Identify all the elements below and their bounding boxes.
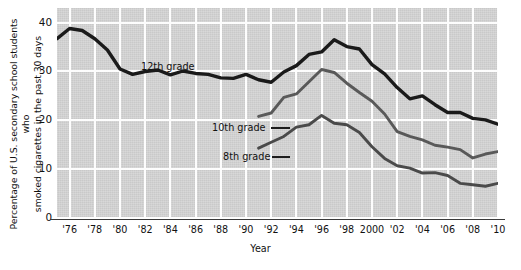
x-tick-label: '96 — [314, 224, 329, 235]
series-lines — [57, 8, 498, 218]
x-tick-label: '98 — [339, 224, 354, 235]
x-tick-label: '80 — [113, 224, 128, 235]
chart-figure: Percentage of U.S. secondary school stud… — [0, 0, 521, 270]
x-tick-label: '92 — [264, 224, 279, 235]
x-tick-label: '78 — [87, 224, 102, 235]
x-tick-label: '90 — [239, 224, 254, 235]
series-label-10th-grade: 10th grade — [212, 122, 266, 133]
leader-line-8th-grade — [272, 156, 290, 158]
x-tick-label: '02 — [390, 224, 405, 235]
x-tick-label: '84 — [163, 224, 178, 235]
x-tick-label: '08 — [465, 224, 480, 235]
x-tick-label: '94 — [289, 224, 304, 235]
y-tick-label: 0 — [26, 211, 52, 223]
x-tick-label: '88 — [213, 224, 228, 235]
plot-area — [57, 8, 498, 218]
series-label-12th-grade: 12th grade — [141, 61, 195, 72]
series-line-12th-grade — [57, 29, 498, 125]
y-tick-label: 20 — [26, 113, 52, 125]
x-axis-title: Year — [0, 243, 521, 254]
y-tick-label: 10 — [26, 162, 52, 174]
y-tick-label: 40 — [26, 16, 52, 28]
x-tick-label: '10 — [491, 224, 506, 235]
x-tick-label: '82 — [138, 224, 153, 235]
x-tick-label: '76 — [62, 224, 77, 235]
leader-line-10th-grade — [271, 127, 290, 129]
x-tick-label: '04 — [415, 224, 430, 235]
series-label-8th-grade: 8th grade — [223, 151, 270, 162]
y-tick-label: 30 — [26, 64, 52, 76]
y-axis-ticks: 010203040 — [22, 0, 52, 270]
x-tick-label: '86 — [188, 224, 203, 235]
x-tick-label: '06 — [440, 224, 455, 235]
x-tick-label: 2000 — [360, 224, 384, 235]
x-axis-line — [50, 219, 505, 220]
